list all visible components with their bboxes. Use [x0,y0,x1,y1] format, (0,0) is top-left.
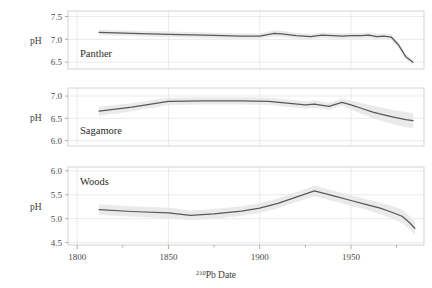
y-tick-label: 6.0 [51,136,63,146]
panel-label-panther: Panther [80,48,113,59]
y-tick-label: 6.5 [51,114,63,124]
y-tick-label: 5.0 [51,214,63,224]
y-tick-label: 7.0 [51,35,63,45]
ph-reconstruction-figure: 6.57.07.5pHPanther6.06.57.0pHSagamore4.5… [0,0,432,288]
y-axis-title: pH [30,36,42,46]
y-tick-label: 6.5 [51,57,63,67]
x-tick-label: 1800 [68,252,87,262]
y-tick-label: 6.0 [51,166,63,176]
y-tick-label: 7.5 [51,12,63,22]
x-tick-label: 1850 [159,252,178,262]
chart-svg: 6.57.07.5pHPanther6.06.57.0pHSagamore4.5… [0,0,432,288]
y-axis-title: pH [30,113,42,123]
y-tick-label: 4.5 [51,238,63,248]
panel-label-woods: Woods [80,176,109,187]
y-axis-title: pH [30,202,42,212]
x-axis-title-main: Pb Date [206,270,236,280]
y-tick-label: 7.0 [51,91,63,101]
x-tick-label: 1950 [342,252,361,262]
x-axis-title-superscript: 210 [196,269,206,276]
x-tick-label: 1900 [251,252,270,262]
panel-label-sagamore: Sagamore [80,125,122,136]
y-tick-label: 5.5 [51,190,63,200]
